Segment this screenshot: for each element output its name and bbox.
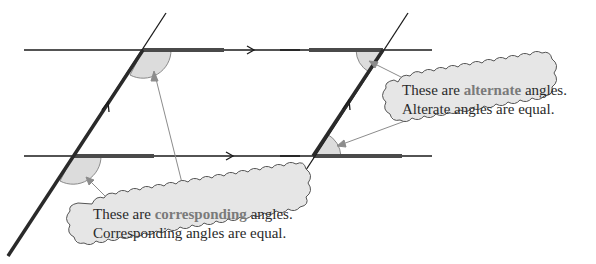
alternate-emphasis: alternate bbox=[464, 82, 521, 98]
pointer-arrowhead-icon bbox=[337, 140, 346, 147]
diagram-canvas bbox=[0, 0, 596, 264]
corresponding-emphasis: corresponding bbox=[155, 206, 247, 222]
corresponding-line-1: These are corresponding angles. bbox=[93, 205, 293, 224]
corresponding-bubble-text: These are corresponding angles. Correspo… bbox=[93, 205, 293, 243]
corresponding-line-2: Corresponding angles are equal. bbox=[93, 224, 293, 243]
alternate-line-1: These are alternate angles. bbox=[402, 81, 567, 100]
corresponding-angle-top bbox=[130, 50, 171, 78]
angles-diagram: These are corresponding angles. Correspo… bbox=[0, 0, 596, 264]
transversal-right-bold bbox=[313, 50, 383, 156]
alternate-line-2: Alterate angles are equal. bbox=[402, 100, 567, 119]
alternate-bubble-text: These are alternate angles. Alterate ang… bbox=[402, 81, 567, 119]
